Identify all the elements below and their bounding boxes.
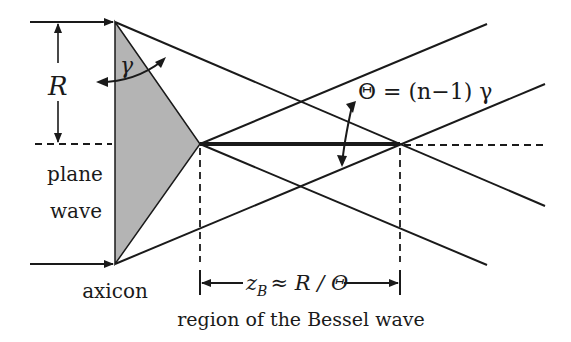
- gamma-arc-arrowhead-right: [155, 57, 166, 68]
- region-label: region of the Bessel wave: [177, 308, 425, 330]
- plane-wave-label-line1: plane: [47, 162, 103, 186]
- theta-arc-arrowhead-bottom: [337, 155, 347, 167]
- gamma-label: γ: [120, 53, 134, 78]
- axicon-diagram: R γ Θ = (n−1) γ zB≈ R / Θ region of the …: [0, 0, 571, 342]
- axicon-label: axicon: [82, 279, 148, 303]
- theta-formula-label: Θ = (n−1) γ: [358, 79, 492, 104]
- radius-label: R: [47, 71, 68, 101]
- plane-wave-label-line2: wave: [50, 199, 102, 223]
- gamma-arc-arrowhead-left: [96, 77, 108, 87]
- zb-formula-label: zB≈ R / Θ: [245, 271, 348, 299]
